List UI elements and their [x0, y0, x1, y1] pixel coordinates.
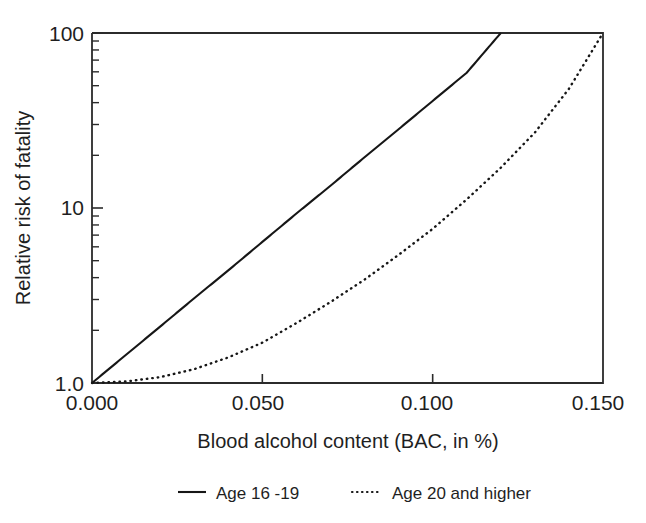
- x-tick-label-0-000: 0.000: [66, 391, 119, 414]
- x-tick-label-0-100: 0.100: [401, 391, 454, 414]
- y-tick-label-100: 100: [49, 22, 84, 45]
- legend-label-age-20-and-higher: Age 20 and higher: [392, 484, 531, 503]
- y-axis-title: Relative risk of fatality: [12, 111, 34, 306]
- relative-risk-of-fatality-chart: 100 10 1.0 0.000 0.050 0.100 0.150 Blood…: [0, 0, 646, 523]
- x-axis-title: Blood alcohol content (BAC, in %): [197, 430, 498, 452]
- x-tick-label-0-050: 0.050: [232, 391, 285, 414]
- chart-figure: 100 10 1.0 0.000 0.050 0.100 0.150 Blood…: [0, 0, 646, 523]
- x-tick-label-0-150: 0.150: [572, 391, 625, 414]
- y-tick-label-10: 10: [61, 196, 84, 219]
- legend-label-age-16-19: Age 16 -19: [216, 484, 299, 503]
